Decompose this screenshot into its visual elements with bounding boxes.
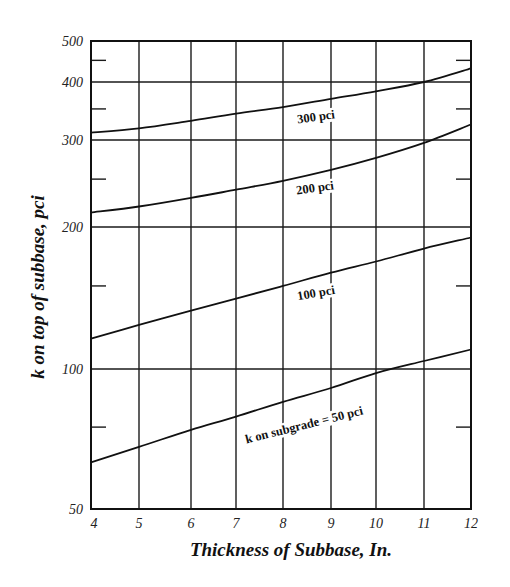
chart-canvas: 300 pci200 pci100 pcik on subgrade = 50 … (0, 0, 510, 587)
x-tick-label: 12 (464, 516, 478, 531)
x-tick-labels: 456789101112 (91, 516, 479, 531)
curve-300-pci (91, 68, 471, 132)
curve-200-pci (91, 125, 471, 213)
curve-label: 200 pci (293, 178, 336, 198)
y-tick-label: 400 (62, 75, 83, 90)
x-tick-label: 6 (188, 516, 195, 531)
x-tick-label: 8 (280, 516, 287, 531)
curve-label-text: 300 pci (296, 107, 336, 126)
curve-100-pci (91, 238, 471, 339)
y-tick-label: 100 (62, 362, 83, 377)
curve-k-on-subgrade-50-pci (91, 350, 471, 463)
y-axis-title: k on top of subbase, pci (27, 194, 48, 378)
y-tick-label: 50 (69, 502, 83, 517)
curve-label-text: k on subgrade = 50 pci (244, 403, 365, 446)
x-tick-label: 9 (328, 516, 335, 531)
x-axis-title: Thickness of Subbase, In. (190, 539, 392, 560)
y-tick-label: 200 (62, 220, 83, 235)
plot-frame (91, 41, 471, 509)
y-tick-label: 500 (62, 34, 83, 49)
x-tick-label: 11 (418, 516, 431, 531)
x-tick-label: 10 (369, 516, 383, 531)
x-tick-label: 4 (91, 516, 98, 531)
curve-label-text: 200 pci (295, 178, 335, 197)
gridlines (91, 41, 471, 509)
minor-ticks (91, 60, 471, 427)
x-tick-label: 5 (136, 516, 143, 531)
y-tick-label: 300 (61, 133, 83, 148)
x-tick-label: 7 (233, 516, 241, 531)
curves (91, 68, 471, 462)
y-tick-labels: 50100200300400500 (61, 34, 83, 517)
